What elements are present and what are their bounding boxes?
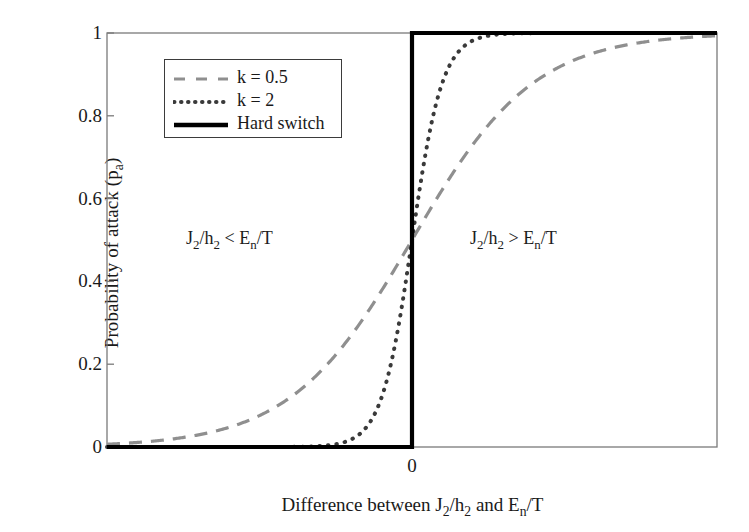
legend-label-hard-switch: Hard switch <box>237 114 324 132</box>
legend-swatch-dotted <box>173 94 229 106</box>
legend-entry-hard-switch: Hard switch <box>173 111 333 134</box>
chart-legend: k = 0.5 k = 2 Hard switch <box>164 59 342 138</box>
legend-swatch-dashed <box>173 71 229 83</box>
plot-area <box>0 0 749 532</box>
legend-entry-k2: k = 2 <box>173 88 333 111</box>
annotation-left-region: J2/h2 < En/T <box>186 228 273 253</box>
legend-swatch-solid <box>173 117 229 129</box>
annotation-right-region: J2/h2 > En/T <box>470 228 557 253</box>
chart-figure: Probability of attack (pa) 00.20.40.60.8… <box>0 0 749 532</box>
legend-label-k2: k = 2 <box>237 91 274 109</box>
legend-entry-k05: k = 0.5 <box>173 65 333 88</box>
legend-label-k05: k = 0.5 <box>237 68 288 86</box>
